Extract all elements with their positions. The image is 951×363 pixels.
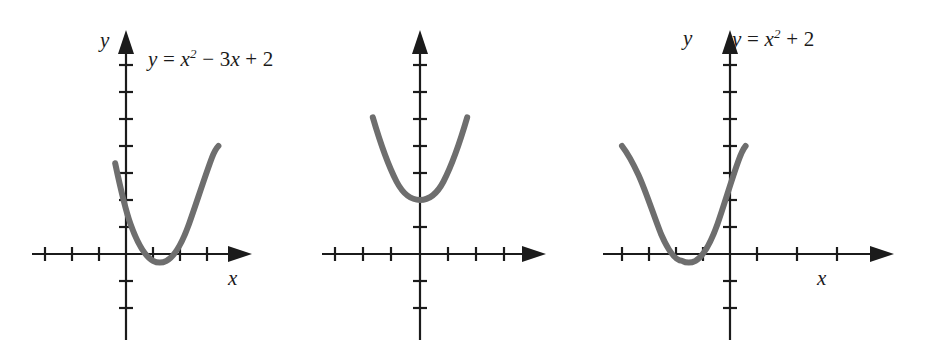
parabola-figure: y = x2 − 3x + 2 y x	[0, 0, 951, 363]
parabola-curve-1	[115, 146, 218, 263]
graph-panel-2: y = x2 + 2 y x	[300, 0, 600, 363]
x-axis-arrowhead-1	[228, 246, 252, 262]
graph-panel-1: y = x2 − 3x + 2 y x	[0, 0, 300, 363]
x-axis-label-1: x	[228, 266, 237, 291]
axes-group-1	[32, 44, 238, 340]
y-axis-arrowhead-2	[412, 30, 428, 54]
x-axis-arrowhead-3	[870, 246, 894, 262]
y-axis-arrowhead-1	[118, 30, 134, 54]
y-axis-label-1: y	[100, 28, 109, 53]
axes-group-2	[322, 44, 532, 340]
equation-label-1: y = x2 − 3x + 2	[148, 46, 274, 72]
graph-panel-3: y = x2 + 3x + 2 y x	[600, 0, 951, 363]
y-axis-arrowhead-3	[722, 30, 738, 54]
parabola-curve-3	[622, 146, 746, 263]
x-axis-arrowhead-2	[522, 246, 546, 262]
